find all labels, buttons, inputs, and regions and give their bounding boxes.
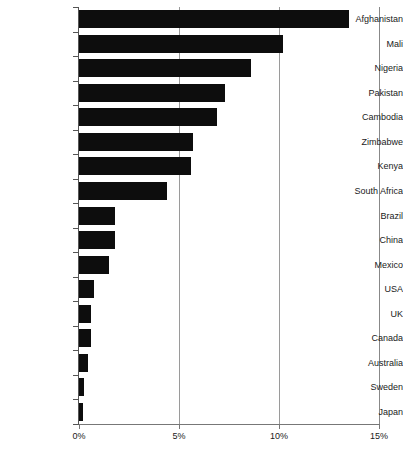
bar-australia [79,354,88,372]
category-label-cambodia: Cambodia [331,112,403,122]
x-axis-label-0pct: 0% [59,431,99,442]
x-axis-label-5pct: 5% [159,431,199,442]
y-axis-tick [73,326,78,327]
bar-afghanistan [79,10,349,28]
y-axis-tick [73,277,78,278]
x-axis-label-15pct: 15% [359,431,399,442]
y-axis-tick [73,7,78,8]
x-axis-label-10pct: 10% [259,431,299,442]
x-axis-line [79,424,380,425]
category-label-usa: USA [331,284,403,294]
x-axis-tick [79,424,80,429]
y-axis-tick [73,203,78,204]
bar-mexico [79,256,109,274]
x-axis-tick [379,424,380,429]
category-label-brazil: Brazil [331,211,403,221]
category-label-pakistan: Pakistan [331,88,403,98]
bar-uk [79,305,91,323]
category-label-china: China [331,235,403,245]
y-axis-tick [73,350,78,351]
y-axis-tick [73,399,78,400]
y-axis-tick [73,154,78,155]
bar-brazil [79,207,115,225]
category-label-nigeria: Nigeria [331,63,403,73]
y-axis-tick [73,424,78,425]
category-label-uk: UK [331,309,403,319]
bar-chart: AfghanistanMaliNigeriaPakistanCambodiaZi… [0,0,403,459]
bar-japan [79,403,83,421]
category-label-afghanistan: Afghanistan [331,14,403,24]
y-axis-tick [73,130,78,131]
bar-mali [79,35,283,53]
y-axis-tick [73,105,78,106]
y-axis-tick [73,81,78,82]
y-axis-tick [73,301,78,302]
bar-pakistan [79,84,225,102]
y-axis-tick [73,32,78,33]
x-axis-tick [179,424,180,429]
bar-kenya [79,157,191,175]
y-axis-tick [73,179,78,180]
bar-china [79,231,115,249]
category-label-mali: Mali [331,39,403,49]
category-label-japan: Japan [331,407,403,417]
y-axis-tick [73,56,78,57]
bar-south-africa [79,182,167,200]
bar-cambodia [79,108,217,126]
category-label-sweden: Sweden [331,382,403,392]
category-label-mexico: Mexico [331,260,403,270]
y-axis-tick [73,252,78,253]
bar-usa [79,280,94,298]
x-axis-tick [279,424,280,429]
bar-sweden [79,378,84,396]
bar-nigeria [79,59,251,77]
y-axis-tick [73,228,78,229]
category-label-kenya: Kenya [331,161,403,171]
category-label-zimbabwe: Zimbabwe [331,137,403,147]
category-label-south-africa: South Africa [331,186,403,196]
bar-zimbabwe [79,133,193,151]
bar-canada [79,329,91,347]
category-label-australia: Australia [331,358,403,368]
y-axis-tick [73,375,78,376]
category-label-canada: Canada [331,333,403,343]
